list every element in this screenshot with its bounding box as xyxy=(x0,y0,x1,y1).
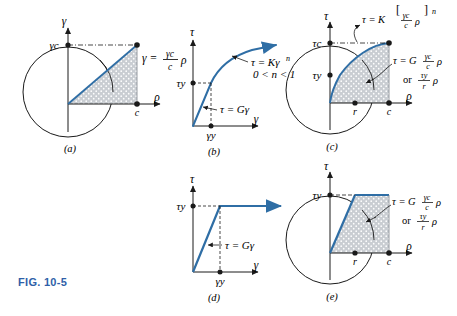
caption-e: (e) xyxy=(326,291,338,303)
equation-alt-lead-e: or xyxy=(402,215,411,226)
equation-top-c: τ = K [ γc c ρ ] n xyxy=(354,3,436,42)
figure-number-label: FIG. 10-5 xyxy=(18,276,67,288)
equation-mid-lead-c: τ = G xyxy=(393,55,417,66)
figure-10-5: γ γc c ρ γ = γc c ρ (a) τ xyxy=(0,0,457,316)
axis-label-gamma-d: γ xyxy=(254,259,259,272)
equation-alt-rho-c: ρ xyxy=(432,75,438,86)
annotation-elastic-text-b: τ = Gγ xyxy=(220,103,250,115)
tick-dot-c-e xyxy=(386,250,392,256)
axis-label-rho-a: ρ xyxy=(153,91,160,104)
equation-alt-rho-e: ρ xyxy=(431,216,437,227)
equation-top-rho-c: ρ xyxy=(414,16,420,27)
equation-mid-numerator-c: γc xyxy=(425,52,432,61)
equation-lead-a: γ = xyxy=(142,52,157,65)
axis-label-tau-d: τ xyxy=(190,173,195,185)
caption-b: (b) xyxy=(208,146,221,158)
tick-label-gammac-a: γc xyxy=(49,39,58,51)
panel-d: τ τy γy γ τ = Gγ (d) xyxy=(177,173,281,304)
tick-label-tauy-e: τy xyxy=(313,189,322,201)
tick-label-r-e: r xyxy=(353,256,357,267)
annotation-elastic-d: τ = Gγ xyxy=(208,239,255,251)
axis-label-tau-b: τ xyxy=(190,26,195,38)
corner-dot-a xyxy=(134,42,140,48)
corner-dot-c xyxy=(386,40,392,46)
equation-rho-a: ρ xyxy=(180,54,187,67)
tick-dot-c-c xyxy=(386,100,392,106)
stress-wedge-e xyxy=(330,195,389,253)
panel-a: γ γc c ρ γ = γc c ρ (a) xyxy=(23,15,187,155)
equation-mid-lead-e: τ = G xyxy=(392,196,416,207)
figure-canvas: γ γc c ρ γ = γc c ρ (a) τ xyxy=(0,0,457,316)
annotation-power-exponent-b: n xyxy=(286,54,290,63)
tick-label-tauy-c: τy xyxy=(313,69,322,81)
tick-dot-gammay-d xyxy=(218,270,223,275)
annotation-power-law-text-b: τ = Kγ xyxy=(251,56,280,68)
caption-c: (c) xyxy=(326,141,338,153)
leader-elastic-b xyxy=(203,107,217,110)
equation-a: γ = γc c ρ xyxy=(142,49,187,72)
equation-alt-numerator-c: τy xyxy=(421,71,428,80)
caption-d: (d) xyxy=(208,292,221,304)
equation-numerator-a: γc xyxy=(166,49,175,59)
equation-alt-lead-c: or xyxy=(403,74,412,85)
equation-top-denominator-c: c xyxy=(404,21,408,30)
tick-dot-tauc-c xyxy=(327,40,332,45)
tick-label-tauy-d: τy xyxy=(177,200,186,212)
equation-alt-denominator-e: r xyxy=(421,223,425,232)
equation-mid-rho-c: ρ xyxy=(436,56,442,67)
stress-wedge-c xyxy=(330,43,389,103)
axis-label-gamma-a: γ xyxy=(62,15,67,28)
panel-c: τ τc τy r c ρ τ = K [ γc c ρ ] n xyxy=(286,3,442,153)
equation-mid-rho-e: ρ xyxy=(435,197,441,208)
axis-label-tau-e: τ xyxy=(324,160,329,172)
tick-dot-tauy-b xyxy=(191,81,196,86)
tick-dot-r-e xyxy=(352,250,357,255)
leader-equation-top-c xyxy=(354,25,360,42)
tick-dot-tauy-d xyxy=(191,204,196,209)
tick-label-c-a: c xyxy=(135,107,140,118)
equation-alt-numerator-e: τy xyxy=(420,212,427,221)
tick-dot-tauy-e xyxy=(327,192,332,197)
equation-mid-denominator-c: c xyxy=(426,62,430,71)
leader-power-law-b xyxy=(232,56,248,62)
annotation-power-law-b: τ = Kγ n 0 < n < 1 xyxy=(232,54,295,80)
tick-dot-r-c xyxy=(352,100,357,105)
equation-top-numerator-c: γc xyxy=(403,11,410,20)
tick-label-tauy-b: τy xyxy=(177,77,186,89)
equation-top-lead-c: τ = K xyxy=(362,14,386,25)
annotation-elastic-b: τ = Gγ xyxy=(203,103,250,115)
tick-dot-tauy-c xyxy=(327,72,332,77)
tick-label-r-c: r xyxy=(353,106,357,117)
panel-b: τ τy γy γ τ = Kγ n 0 < n < 1 τ = Gγ (b) xyxy=(177,26,296,158)
axis-label-tau-c: τ xyxy=(324,10,329,22)
annotation-elastic-text-d: τ = Gγ xyxy=(225,239,255,251)
equation-mid-denominator-e: c xyxy=(425,203,429,212)
axis-label-rho-c: ρ xyxy=(405,90,412,103)
tick-label-c-e: c xyxy=(387,256,392,267)
equation-top-exponent-c: n xyxy=(432,7,436,16)
tick-dot-gammac-a xyxy=(65,42,70,47)
axis-label-gamma-b: γ xyxy=(254,113,259,126)
equation-denominator-a: c xyxy=(168,62,173,72)
caption-a: (a) xyxy=(64,143,77,155)
tick-label-c-c: c xyxy=(387,106,392,117)
bracket-close-c: ] xyxy=(424,3,428,17)
tick-dot-gammay-b xyxy=(209,124,214,129)
tick-dot-c-a xyxy=(134,101,140,107)
bracket-open-c: [ xyxy=(396,3,400,17)
tick-label-gammay-d: γy xyxy=(215,275,224,287)
tick-label-gammay-b: γy xyxy=(206,129,215,141)
panel-e: τ τy r c ρ τ = G γc c ρ or τy r ρ (e) xyxy=(286,160,441,303)
axis-label-rho-e: ρ xyxy=(405,240,412,253)
equation-alt-denominator-c: r xyxy=(422,82,426,91)
equation-mid-numerator-e: γc xyxy=(424,193,431,202)
tick-label-tauc-c: τc xyxy=(313,37,322,49)
